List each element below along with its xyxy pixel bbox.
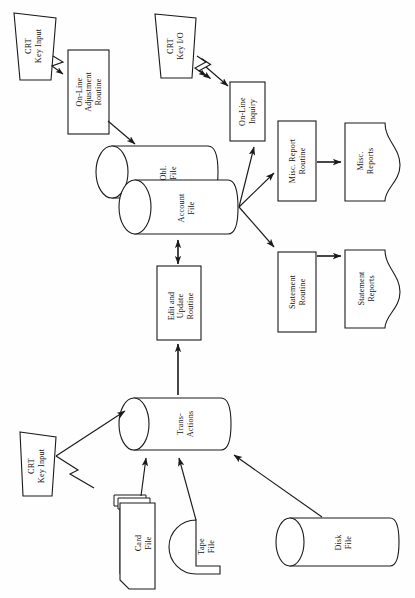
node-transactions — [119, 398, 231, 450]
node-edit-update-routine — [157, 266, 201, 340]
edge-crt-input-bottom-to-transactions — [56, 411, 125, 488]
edge-account-file-to-online-inquiry — [239, 147, 254, 207]
node-account-file — [119, 180, 238, 234]
node-crt-key-input-bottom — [20, 432, 56, 496]
edge-account-file-to-statement-routine — [239, 207, 274, 247]
edge-online-adjustment-to-obl-file — [108, 121, 135, 144]
node-tape-file — [169, 520, 220, 574]
node-statement-routine — [278, 252, 316, 332]
node-card-file — [114, 495, 155, 589]
node-statement-reports — [345, 250, 400, 328]
edge-card-file-to-transactions — [141, 458, 146, 496]
edge-disk-file-to-transactions — [234, 455, 322, 517]
edge-crt-input-to-online-adjustment — [52, 56, 63, 74]
edge-tape-file-to-transactions — [179, 458, 196, 520]
edge-crt-key-io-to-online-inquiry — [195, 56, 228, 86]
node-online-adjustment-routine — [68, 50, 109, 134]
node-crt-key-io — [155, 14, 196, 78]
flowchart-canvas: CRT Key Input On-Line Adjustment Routine… — [0, 0, 415, 598]
flowchart-vector-layer — [0, 0, 415, 598]
edge-account-file-to-misc-report-routine — [239, 173, 274, 207]
node-crt-key-input-top — [14, 13, 56, 80]
node-disk-file — [276, 518, 399, 566]
node-misc-report-routine — [278, 121, 316, 201]
node-misc-reports — [345, 123, 400, 201]
node-online-inquiry — [230, 82, 265, 141]
